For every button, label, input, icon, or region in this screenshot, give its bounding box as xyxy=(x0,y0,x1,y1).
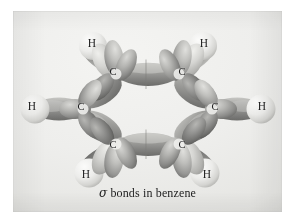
atom-label-H2: H xyxy=(200,38,208,50)
atom-label-C2: C xyxy=(178,67,185,78)
caption-text: bonds in benzene xyxy=(107,186,196,200)
atom-label-C3: C xyxy=(211,102,218,113)
atom-label-C4: C xyxy=(178,140,185,151)
figure-caption: σ bonds in benzene xyxy=(13,187,282,200)
atom-label-H4: H xyxy=(203,169,211,181)
atom-label-C6: C xyxy=(77,102,84,113)
atom-label-C5: C xyxy=(109,140,116,151)
photo-plate: C C C C C C H H H H H H σ bonds in benze… xyxy=(13,11,282,212)
sigma-symbol: σ xyxy=(99,186,107,200)
atom-label-H5: H xyxy=(82,169,90,181)
orbital-overlap-illustration xyxy=(13,11,282,212)
atom-label-H3: H xyxy=(258,101,266,113)
atom-label-H6: H xyxy=(28,101,36,113)
atom-label-C1: C xyxy=(109,67,116,78)
figure-root: C C C C C C H H H H H H σ bonds in benze… xyxy=(0,0,299,224)
atom-label-H1: H xyxy=(88,38,96,50)
benzene-sigma-framework-diagram: C C C C C C H H H H H H xyxy=(13,11,282,212)
